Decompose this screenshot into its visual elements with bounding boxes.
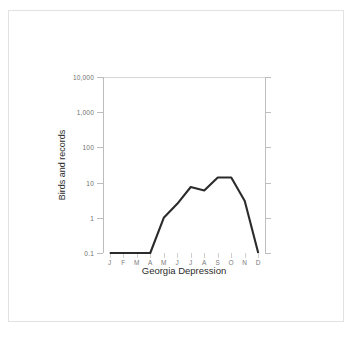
y-axis-tick-right — [265, 77, 271, 78]
chart-page: Birds and records Georgia Depression 0.1… — [0, 0, 352, 337]
y-axis-tick-label: 0.1 — [84, 250, 94, 257]
x-axis-tick-label: F — [121, 259, 125, 266]
x-axis-tick-label: J — [108, 259, 111, 266]
x-axis-tick — [258, 253, 259, 258]
y-axis-tick-label: 10,000 — [73, 74, 94, 81]
y-axis-tick-right — [265, 218, 271, 219]
y-axis-tick-right — [265, 112, 271, 113]
x-axis-tick — [164, 253, 165, 258]
y-axis-tick-right — [265, 147, 271, 148]
y-axis-tick-right — [265, 183, 271, 184]
y-axis-tick-label: 100 — [83, 144, 94, 151]
y-axis-tick — [97, 253, 103, 254]
x-axis-tick-label: A — [202, 259, 207, 266]
x-axis-tick — [218, 253, 219, 258]
x-axis-tick-label: S — [215, 259, 220, 266]
x-axis-tick — [177, 253, 178, 258]
x-axis-tick-label: D — [256, 259, 261, 266]
y-axis-tick-label: 1 — [90, 214, 94, 221]
x-axis-tick — [231, 253, 232, 258]
y-axis-tick-label: 10 — [86, 179, 94, 186]
x-axis-tick — [191, 253, 192, 258]
y-axis-tick-label: 1,000 — [77, 109, 94, 116]
data-series-line — [103, 77, 265, 253]
x-axis-tick — [245, 253, 246, 258]
x-axis-tick — [204, 253, 205, 258]
x-axis-tick-label: A — [148, 259, 153, 266]
x-axis-tick-label: N — [242, 259, 247, 266]
y-axis-title: Birds and records — [57, 130, 67, 201]
x-axis-tick-label: J — [189, 259, 192, 266]
x-axis-tick-label: M — [161, 259, 167, 266]
y-axis-right-spine — [265, 77, 266, 253]
x-axis-tick-label: M — [134, 259, 140, 266]
x-axis-tick-label: O — [229, 259, 234, 266]
x-axis-title: Georgia Depression — [103, 265, 265, 276]
x-axis-tick-label: J — [176, 259, 179, 266]
plot-area: 0.11101001,00010,000 JFMAMJJASOND — [103, 77, 265, 253]
y-axis-tick-right — [265, 253, 271, 254]
